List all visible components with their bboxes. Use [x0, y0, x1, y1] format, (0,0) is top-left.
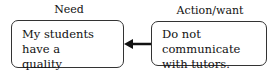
arrowhead-icon	[124, 39, 133, 49]
arrow-action-to-need	[0, 0, 274, 73]
